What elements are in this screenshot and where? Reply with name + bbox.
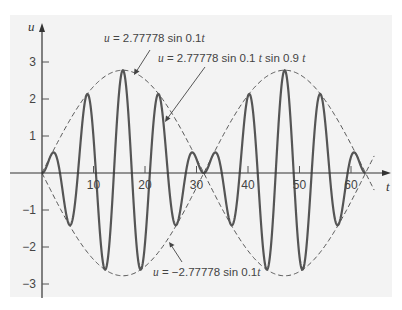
x-tick-label: 60	[344, 178, 358, 192]
y-tick-label: 3	[29, 55, 36, 69]
x-tick-label: 10	[87, 178, 101, 192]
x-tick-label: 40	[241, 178, 255, 192]
y-axis-label: u	[28, 19, 35, 34]
annotation-lower-envelope: u = −2.77778 sin 0.1t	[153, 266, 261, 278]
x-tick-label: 20	[138, 178, 152, 192]
annotation-signal: u = 2.77778 sin 0.1 t sin 0.9 t	[158, 52, 306, 64]
y-tick-label: 1	[29, 129, 36, 143]
y-tick-label: −1	[22, 203, 36, 217]
x-tick-label: 30	[190, 178, 204, 192]
y-tick-label: −2	[22, 240, 36, 254]
y-tick-label: −3	[22, 277, 36, 291]
y-tick-label: 2	[29, 92, 36, 106]
annotation-upper-envelope: u = 2.77778 sin 0.1t	[104, 32, 206, 44]
x-tick-label: 50	[293, 178, 307, 192]
x-axis-label: t	[386, 179, 390, 194]
beat-oscillation-chart: u −3−2−1123 t 102030405060 u = 2.77778 s…	[0, 0, 402, 310]
